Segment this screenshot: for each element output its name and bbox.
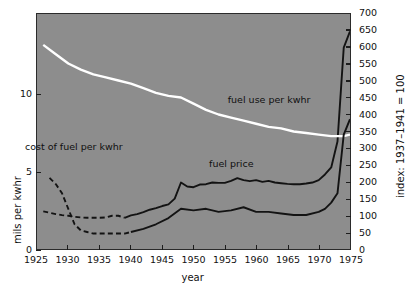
right-tick-mark-50: [346, 233, 351, 234]
x-tick-label-1955: 1955: [209, 255, 241, 265]
x-tick-label-1940: 1940: [115, 255, 147, 265]
x-tick-mark-1965: [288, 245, 289, 250]
right-tick-mark-250: [346, 165, 351, 166]
right-tick-mark-450: [346, 97, 351, 98]
x-tick-mark-1960: [256, 245, 257, 250]
x-tick-mark-1945: [162, 245, 163, 250]
series-line-fuel-price: [43, 211, 124, 217]
right-tick-mark-200: [346, 182, 351, 183]
left-tick-mark-10: [36, 94, 41, 95]
x-tick-mark-1935: [99, 245, 100, 250]
x-tick-mark-1940: [130, 245, 131, 250]
right-tick-label-500: 500: [359, 76, 389, 86]
x-tick-label-1960: 1960: [241, 255, 273, 265]
right-tick-mark-500: [346, 80, 351, 81]
plot-area: [36, 13, 351, 250]
right-tick-label-250: 250: [359, 160, 389, 170]
x-tick-label-1965: 1965: [272, 255, 304, 265]
fuel-cost-chart-figure: 0510 05010015020025030035040045050055060…: [0, 0, 417, 289]
right-tick-label-150: 150: [359, 194, 389, 204]
right-tick-mark-550: [346, 63, 351, 64]
right-tick-label-600: 600: [359, 42, 389, 52]
x-tick-mark-1950: [193, 245, 194, 250]
right-tick-label-100: 100: [359, 211, 389, 221]
right-tick-mark-100: [346, 216, 351, 217]
right-tick-mark-350: [346, 131, 351, 132]
right-tick-mark-150: [346, 199, 351, 200]
right-tick-label-700: 700: [359, 8, 389, 18]
x-tick-label-1925: 1925: [20, 255, 52, 265]
left-tick-label-10: 10: [2, 89, 32, 99]
right-tick-label-200: 200: [359, 177, 389, 187]
x-tick-label-1975: 1975: [335, 255, 367, 265]
right-tick-mark-400: [346, 114, 351, 115]
right-tick-label-350: 350: [359, 127, 389, 137]
x-tick-mark-1955: [225, 245, 226, 250]
x-tick-mark-1930: [67, 245, 68, 250]
series-line-fuel-use-per-kwhr: [43, 45, 350, 136]
right-axis-title: index: 1937–1941 = 100: [395, 74, 406, 198]
right-tick-label-550: 550: [359, 59, 389, 69]
x-tick-label-1970: 1970: [304, 255, 336, 265]
right-tick-label-450: 450: [359, 93, 389, 103]
right-tick-label-300: 300: [359, 143, 389, 153]
right-tick-label-50: 50: [359, 228, 389, 238]
left-axis-title: mils per kwhr: [12, 176, 23, 244]
x-tick-label-1935: 1935: [83, 255, 115, 265]
x-tick-label-1945: 1945: [146, 255, 178, 265]
right-tick-mark-600: [346, 46, 351, 47]
plot-series-canvas: [37, 14, 350, 249]
right-tick-mark-300: [346, 148, 351, 149]
left-tick-mark-0: [36, 250, 41, 251]
x-axis-title: year: [182, 272, 204, 283]
annotation-cost-of-fuel-per-kwhr: cost of fuel per kwhr: [25, 141, 123, 152]
annotation-fuel-price: fuel price: [209, 158, 254, 169]
x-tick-label-1930: 1930: [52, 255, 84, 265]
annotation-fuel-use-per-kwhr: fuel use per kwhr: [228, 94, 311, 105]
x-tick-mark-1970: [319, 245, 320, 250]
x-tick-label-1950: 1950: [178, 255, 210, 265]
right-tick-mark-650: [346, 29, 351, 30]
series-line-cost-of-fuel-per-kwhr: [50, 178, 131, 234]
right-tick-label-0: 0: [359, 245, 389, 255]
right-tick-label-650: 650: [359, 25, 389, 35]
series-line-cost-of-fuel-per-kwhr: [131, 119, 350, 232]
right-tick-label-400: 400: [359, 110, 389, 120]
left-tick-mark-5: [36, 172, 41, 173]
series-line-fuel-price: [125, 31, 350, 217]
